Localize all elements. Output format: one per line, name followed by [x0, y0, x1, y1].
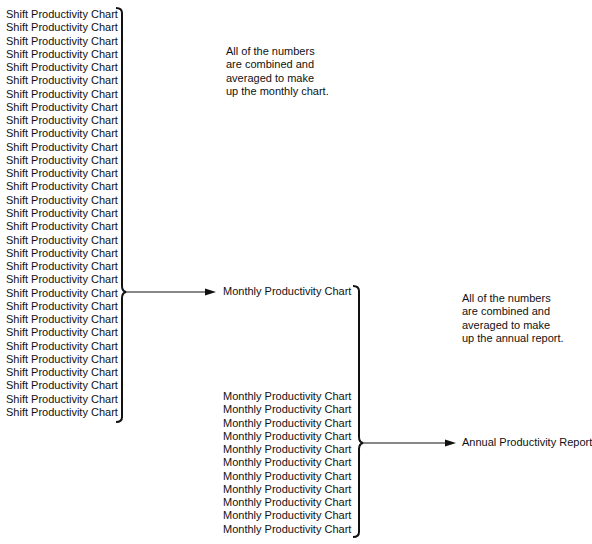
monthly-chart-item: Monthly Productivity Chart [223, 496, 351, 509]
shift-chart-item: Shift Productivity Chart [6, 260, 118, 273]
note-annual-line: All of the numbers [462, 292, 564, 305]
shift-chart-item: Shift Productivity Chart [6, 247, 118, 260]
monthly-chart-item: Monthly Productivity Chart [223, 456, 351, 469]
shift-chart-item: Shift Productivity Chart [6, 313, 118, 326]
shift-chart-item: Shift Productivity Chart [6, 273, 118, 286]
shift-chart-item: Shift Productivity Chart [6, 167, 118, 180]
shift-chart-item: Shift Productivity Chart [6, 88, 118, 101]
shift-chart-item: Shift Productivity Chart [6, 194, 118, 207]
shift-chart-item: Shift Productivity Chart [6, 353, 118, 366]
shift-chart-item: Shift Productivity Chart [6, 340, 118, 353]
note-annual-line: up the annual report. [462, 332, 564, 345]
arrow-to-monthly-head [205, 289, 216, 296]
monthly-chart-list: Monthly Productivity ChartMonthly Produc… [223, 390, 351, 536]
shift-chart-item: Shift Productivity Chart [6, 379, 118, 392]
shift-chart-item: Shift Productivity Chart [6, 8, 118, 21]
shift-chart-item: Shift Productivity Chart [6, 406, 118, 419]
monthly-productivity-chart-node: Monthly Productivity Chart [223, 285, 351, 298]
note-annual: All of the numbers are combined and aver… [462, 292, 564, 345]
note-monthly-line: are combined and [226, 58, 329, 71]
monthly-chart-item: Monthly Productivity Chart [223, 483, 351, 496]
monthly-chart-item: Monthly Productivity Chart [223, 443, 351, 456]
shift-chart-item: Shift Productivity Chart [6, 366, 118, 379]
monthly-chart-item: Monthly Productivity Chart [223, 509, 351, 522]
shift-chart-item: Shift Productivity Chart [6, 127, 118, 140]
shift-chart-item: Shift Productivity Chart [6, 220, 118, 233]
monthly-chart-item: Monthly Productivity Chart [223, 523, 351, 536]
annual-productivity-report-node: Annual Productivity Report [462, 436, 592, 449]
shift-chart-item: Shift Productivity Chart [6, 35, 118, 48]
shift-chart-item: Shift Productivity Chart [6, 180, 118, 193]
shift-chart-item: Shift Productivity Chart [6, 141, 118, 154]
arrow-to-annual-head [445, 440, 456, 447]
monthly-chart-item: Monthly Productivity Chart [223, 470, 351, 483]
monthly-chart-item: Monthly Productivity Chart [223, 417, 351, 430]
note-monthly: All of the numbers are combined and aver… [226, 45, 329, 98]
note-annual-line: are combined and [462, 305, 564, 318]
monthly-chart-item: Monthly Productivity Chart [223, 403, 351, 416]
note-monthly-line: up the monthly chart. [226, 85, 329, 98]
shift-chart-list: Shift Productivity ChartShift Productivi… [6, 8, 118, 419]
note-monthly-line: All of the numbers [226, 45, 329, 58]
shift-chart-item: Shift Productivity Chart [6, 74, 118, 87]
shift-chart-item: Shift Productivity Chart [6, 114, 118, 127]
shift-chart-item: Shift Productivity Chart [6, 234, 118, 247]
shift-chart-item: Shift Productivity Chart [6, 61, 118, 74]
shift-chart-item: Shift Productivity Chart [6, 393, 118, 406]
monthly-chart-item: Monthly Productivity Chart [223, 390, 351, 403]
shift-chart-item: Shift Productivity Chart [6, 300, 118, 313]
shift-chart-item: Shift Productivity Chart [6, 101, 118, 114]
note-annual-line: averaged to make [462, 319, 564, 332]
shift-chart-item: Shift Productivity Chart [6, 287, 118, 300]
shift-chart-item: Shift Productivity Chart [6, 21, 118, 34]
shift-chart-item: Shift Productivity Chart [6, 154, 118, 167]
shift-chart-item: Shift Productivity Chart [6, 48, 118, 61]
right-brace [353, 286, 363, 537]
shift-chart-item: Shift Productivity Chart [6, 207, 118, 220]
note-monthly-line: averaged to make [226, 72, 329, 85]
shift-chart-item: Shift Productivity Chart [6, 326, 118, 339]
monthly-chart-item: Monthly Productivity Chart [223, 430, 351, 443]
